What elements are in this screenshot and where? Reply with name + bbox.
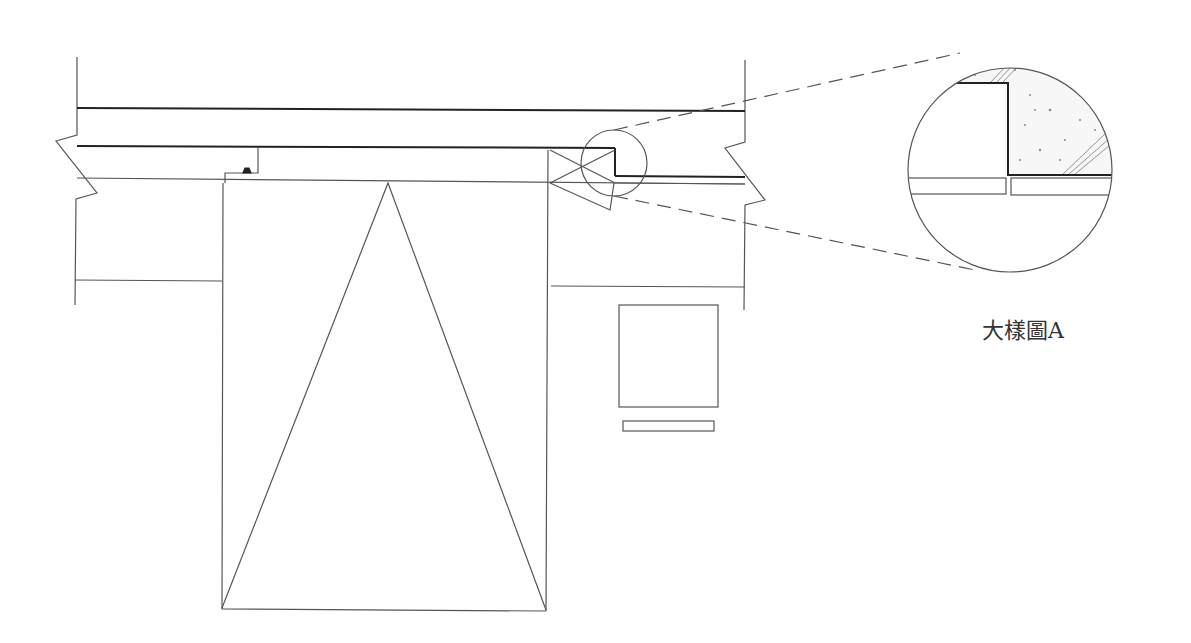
hinge-detail xyxy=(225,147,258,183)
right-wall xyxy=(551,60,765,310)
ceiling-slab xyxy=(77,108,745,184)
callout-leader-lines xyxy=(614,53,975,270)
detail-label: 大樣圖A xyxy=(982,312,1064,344)
left-wall xyxy=(56,57,222,305)
magnified-detail xyxy=(880,30,1141,272)
small-strip xyxy=(623,421,714,431)
small-square-panel xyxy=(619,305,718,407)
door-panel xyxy=(222,150,548,611)
frame-cross-detail xyxy=(550,150,615,210)
